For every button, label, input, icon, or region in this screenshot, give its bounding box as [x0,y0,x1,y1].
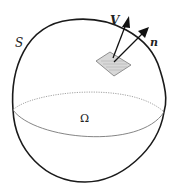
control-volume-diagram: V n S Ω [0,0,173,191]
region-label: Ω [80,112,89,125]
surface-outline [13,19,166,182]
diagram-canvas: V n S Ω [0,0,173,191]
surface-label: S [15,36,23,50]
normal-label: n [150,36,158,49]
equator-back [13,92,164,112]
